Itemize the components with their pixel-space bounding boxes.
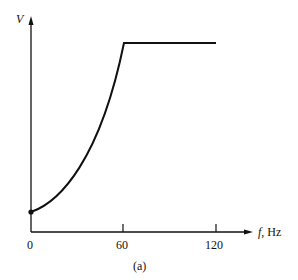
x-axis-unit: Hz bbox=[267, 225, 281, 239]
x-tick-label-60: 60 bbox=[116, 238, 128, 253]
x-axis-label: f, Hz bbox=[258, 225, 281, 240]
x-tick-label-120: 120 bbox=[205, 238, 223, 253]
figure-caption: (a) bbox=[133, 259, 146, 274]
x-axis-arrow-icon bbox=[244, 230, 253, 235]
y-axis-label: V bbox=[16, 12, 23, 27]
x-axis-variable: f, bbox=[258, 225, 264, 239]
y-axis-arrow-icon bbox=[29, 16, 34, 25]
chart-canvas bbox=[0, 0, 298, 280]
x-tick-label-0: 0 bbox=[27, 238, 33, 253]
v-f-curve bbox=[31, 43, 216, 212]
start-point-marker bbox=[28, 209, 33, 214]
